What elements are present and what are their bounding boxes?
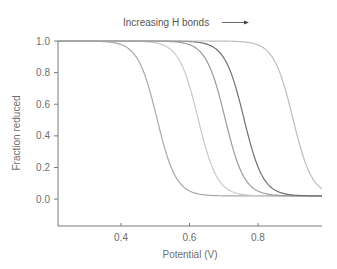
annotation: Increasing H bonds [123, 17, 249, 28]
x-tick-label: 0.6 [183, 232, 197, 243]
y-ticks: 0.00.20.40.60.81.0 [36, 36, 58, 205]
series-line-curve-4 [58, 41, 322, 196]
series-line-curve-1 [58, 41, 322, 196]
y-axis-label: Fraction reduced [11, 95, 22, 170]
series-line-curve-3 [58, 41, 322, 196]
y-tick-label: 0.4 [36, 130, 50, 141]
series-line-curve-5 [58, 41, 322, 189]
y-tick-label: 1.0 [36, 36, 50, 47]
y-tick-label: 0.2 [36, 162, 50, 173]
curves [58, 41, 322, 196]
x-tick-label: 0.8 [251, 232, 265, 243]
right-arrow-icon [222, 21, 249, 25]
y-tick-label: 0.8 [36, 67, 50, 78]
y-tick-label: 0.0 [36, 194, 50, 205]
x-axis-label: Potential (V) [162, 249, 217, 260]
x-tick-label: 0.4 [114, 232, 128, 243]
y-tick-label: 0.6 [36, 99, 50, 110]
series-line-curve-2 [58, 41, 322, 196]
annotation-text: Increasing H bonds [123, 17, 209, 28]
chart: Increasing H bonds 0.00.20.40.60.81.0 0.… [0, 0, 337, 269]
axes [58, 41, 322, 226]
